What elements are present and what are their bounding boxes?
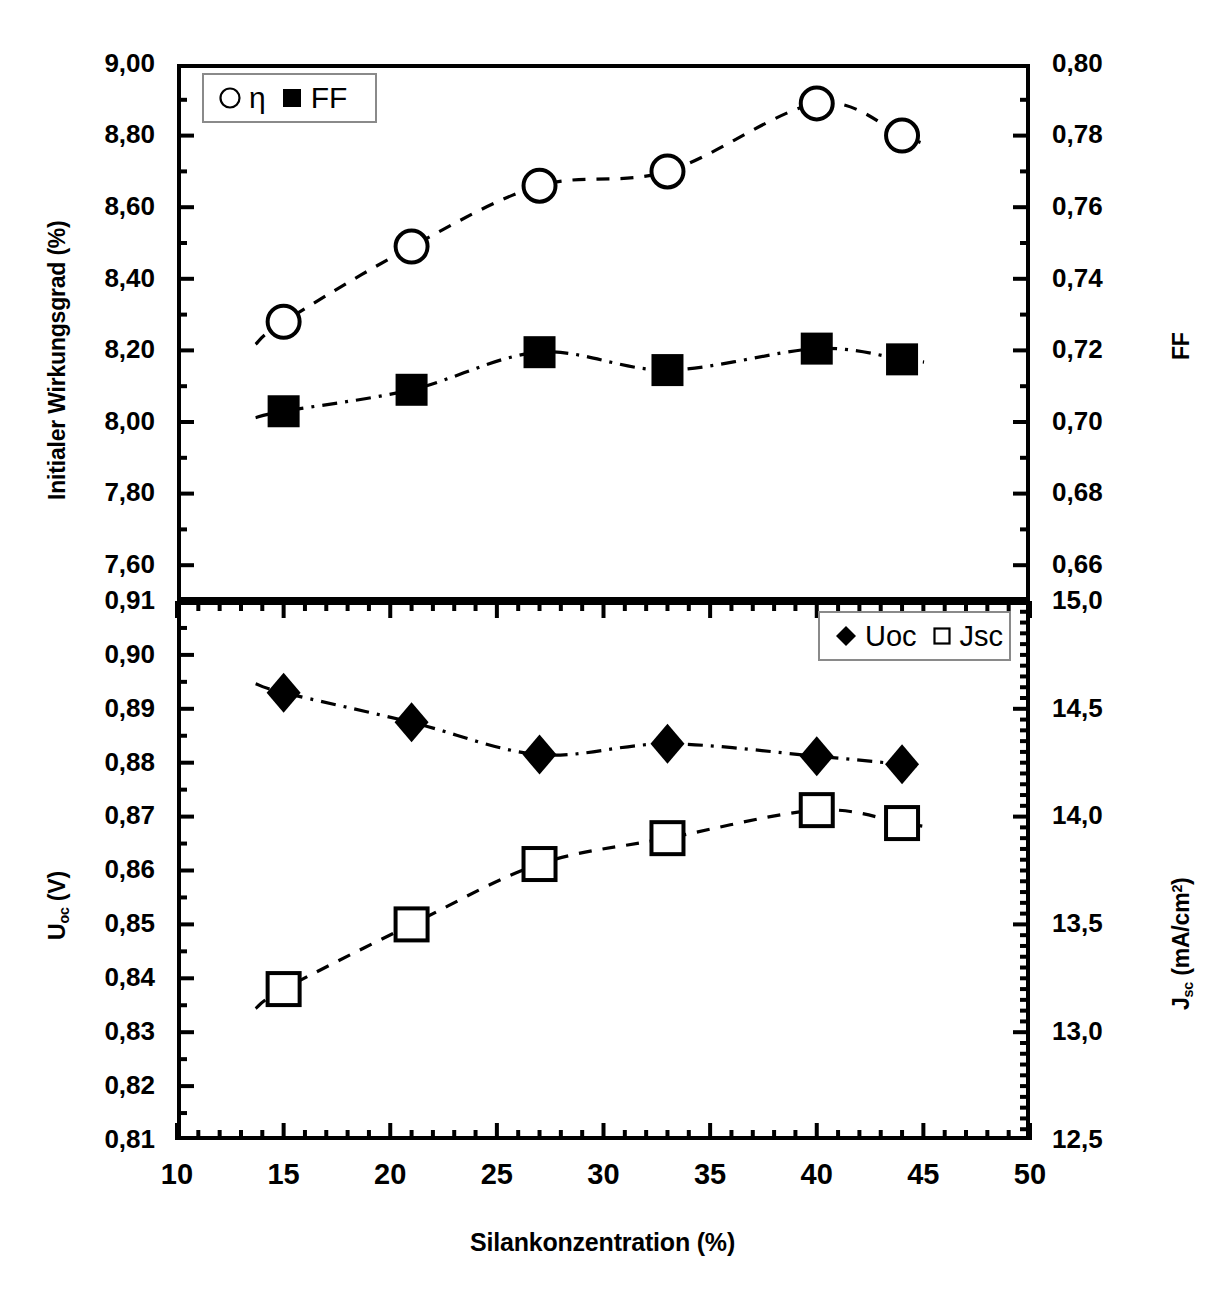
legend-label-jsc: Jsc <box>960 622 1004 651</box>
legend-item-eta: η <box>218 83 266 113</box>
top-right-axis-title: FF <box>1168 332 1195 360</box>
tl-bot-left-0: 0,91 <box>0 585 155 616</box>
legend-item-ff: FF <box>280 83 348 113</box>
x-tick-label-20: 20 <box>345 1158 435 1191</box>
tl-bot-right-5: 12,5 <box>1052 1124 1172 1155</box>
tl-top-right-6: 0,68 <box>1052 477 1172 508</box>
tl-bot-left-3: 0,88 <box>0 747 155 778</box>
x-tick-label-45: 45 <box>878 1158 968 1191</box>
tl-bot-left-10: 0,81 <box>0 1124 155 1155</box>
tl-bot-right-0: 15,0 <box>1052 585 1172 616</box>
tl-bot-left-6: 0,85 <box>0 908 155 939</box>
legend-label-eta: η <box>249 83 266 113</box>
tl-bot-left-8: 0,83 <box>0 1016 155 1047</box>
tl-top-left-3: 8,40 <box>0 263 155 294</box>
tl-bot-left-1: 0,90 <box>0 639 155 670</box>
tl-top-left-6: 7,80 <box>0 477 155 508</box>
tl-bot-left-4: 0,87 <box>0 800 155 831</box>
x-tick-label-10: 10 <box>132 1158 222 1191</box>
tl-top-right-0: 0,80 <box>1052 48 1172 79</box>
top-panel-ticks <box>157 44 1070 641</box>
x-tick-label-50: 50 <box>985 1158 1075 1191</box>
tl-top-left-4: 8,20 <box>0 334 155 365</box>
tl-top-left-5: 8,00 <box>0 406 155 437</box>
tl-top-right-7: 0,66 <box>1052 549 1172 580</box>
tl-top-right-5: 0,70 <box>1052 406 1172 437</box>
tl-top-right-1: 0,78 <box>1052 119 1172 150</box>
open-circle-icon <box>218 86 242 110</box>
bottom-panel-ticks <box>157 581 1070 1180</box>
filled-square-icon <box>280 86 304 110</box>
tl-top-right-4: 0,72 <box>1052 334 1172 365</box>
tl-top-right-3: 0,74 <box>1052 263 1172 294</box>
bottom-panel-legend: Uoc Jsc <box>818 611 1011 661</box>
tl-top-left-1: 8,80 <box>0 119 155 150</box>
tl-top-left-2: 8,60 <box>0 191 155 222</box>
legend-item-jsc: Jsc <box>931 622 1004 651</box>
bottom-right-axis-title-close: ) <box>1168 877 1194 884</box>
x-tick-label-30: 30 <box>559 1158 649 1191</box>
bottom-right-axis-title-main: J <box>1168 997 1194 1010</box>
legend-label-uoc: Uoc <box>865 622 917 651</box>
x-tick-label-15: 15 <box>239 1158 329 1191</box>
tl-top-right-2: 0,76 <box>1052 191 1172 222</box>
tl-bot-right-2: 14,0 <box>1052 800 1172 831</box>
tl-bot-right-4: 13,0 <box>1052 1016 1172 1047</box>
filled-diamond-icon <box>834 624 858 648</box>
tl-bot-left-9: 0,82 <box>0 1070 155 1101</box>
open-square-icon <box>931 625 953 647</box>
tl-top-left-0: 9,00 <box>0 48 155 79</box>
legend-item-uoc: Uoc <box>834 622 917 651</box>
tl-bot-left-5: 0,86 <box>0 854 155 885</box>
tl-bot-right-1: 14,5 <box>1052 693 1172 724</box>
bottom-right-axis-title-sub: sc <box>1180 982 1196 997</box>
top-panel-legend: η FF <box>202 73 377 123</box>
x-axis-title: Silankonzentration (%) <box>0 1228 1205 1257</box>
tl-top-left-7: 7,60 <box>0 549 155 580</box>
x-tick-label-40: 40 <box>772 1158 862 1191</box>
bottom-right-axis-title: Jsc (mA/cm2) <box>1168 877 1196 1010</box>
legend-label-ff: FF <box>311 83 348 113</box>
tl-bot-right-3: 13,5 <box>1052 908 1172 939</box>
bottom-right-axis-title-sup: 2 <box>1169 885 1185 893</box>
tl-bot-left-2: 0,89 <box>0 693 155 724</box>
x-tick-label-35: 35 <box>665 1158 755 1191</box>
tl-bot-left-7: 0,84 <box>0 962 155 993</box>
x-tick-label-25: 25 <box>452 1158 542 1191</box>
